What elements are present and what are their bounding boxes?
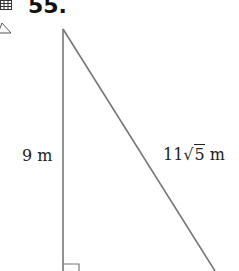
hypotenuse-unit: m: [210, 145, 225, 164]
radical-symbol: √: [183, 145, 193, 164]
hypotenuse-label: 11√5 m: [163, 145, 225, 164]
right-angle-marker: [63, 264, 79, 271]
right-triangle-diagram: [0, 0, 239, 271]
radicand: 5: [194, 144, 205, 164]
vertical-leg-label: 9 m: [22, 146, 52, 165]
hypotenuse-coefficient: 11: [163, 145, 183, 164]
square-root: √5: [183, 145, 204, 164]
